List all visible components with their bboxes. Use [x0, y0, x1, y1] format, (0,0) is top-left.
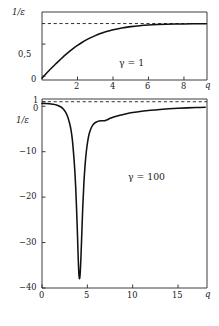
bottom-panel-ytick-1: 0: [33, 104, 38, 112]
figure-svg: [0, 0, 219, 326]
bottom-panel-ytick-4: −30: [19, 238, 37, 246]
bottom-panel-xtick-1: 5: [84, 291, 89, 299]
top-panel-ylabel: 1/ε: [12, 8, 25, 17]
bottom-panel-xlabel: q: [205, 290, 211, 299]
top-panel-ytick-1: 0: [31, 75, 36, 83]
top-panel-ytick-0: 0,5: [18, 50, 31, 58]
top-panel-xlabel: q: [205, 81, 211, 90]
figure-container: 1/ε 0,5 0 2 4 6 8 q γ = 1 1 0 1/ε −10 −2…: [0, 0, 219, 326]
bottom-panel-ytick-3: −20: [19, 192, 37, 200]
bottom-panel-xtick-3: 15: [172, 291, 183, 299]
bottom-panel-frame: [42, 99, 207, 288]
top-panel-curve: [42, 24, 206, 78]
bottom-panel-yticks: [42, 102, 46, 288]
bottom-panel-ytick-5: −40: [19, 283, 37, 291]
top-panel-xtick-1: 4: [110, 82, 115, 90]
bottom-panel-xtick-2: 10: [127, 291, 138, 299]
top-panel-xtick-2: 6: [145, 82, 150, 90]
bottom-panel-curve: [42, 103, 205, 278]
top-panel-yticks: [42, 44, 46, 76]
bottom-panel-ylabel: 1/ε: [16, 116, 29, 125]
top-panel-frame: [42, 12, 207, 80]
top-panel-xtick-0: 2: [74, 82, 79, 90]
bottom-panel-xticks: [42, 285, 178, 289]
top-panel-xticks: [77, 77, 183, 81]
bottom-panel-ytick-2: −10: [19, 147, 37, 155]
top-panel-xtick-3: 8: [181, 82, 186, 90]
top-panel-annotation: γ = 1: [119, 58, 144, 67]
bottom-panel-xtick-0: 0: [39, 291, 44, 299]
bottom-panel-annotation: γ = 100: [128, 172, 165, 181]
